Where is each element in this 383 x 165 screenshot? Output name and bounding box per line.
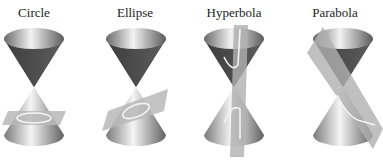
conic-diagram bbox=[0, 0, 383, 165]
circle-cone bbox=[2, 28, 66, 146]
hyperbola-cone bbox=[204, 25, 264, 157]
ellipse-cone bbox=[102, 28, 168, 146]
parabola-cone bbox=[307, 27, 383, 149]
